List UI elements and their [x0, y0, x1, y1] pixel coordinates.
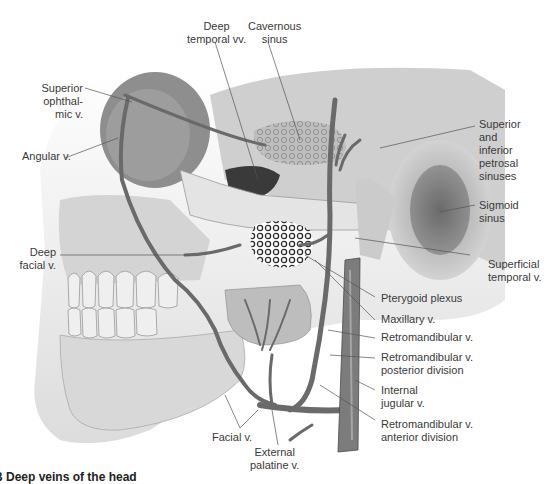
label-deep-facial-vein: Deep facial v.	[10, 246, 56, 272]
label-retromandibular-vein: Retromandibular v.	[381, 331, 473, 344]
label-retromandibular-anterior-division: Retromandibular v. anterior division	[381, 418, 473, 444]
label-facial-vein: Facial v.	[212, 431, 252, 444]
label-sigmoid-sinus: Sigmoid sinus	[479, 199, 519, 225]
label-superior-ophthalmic-vein: Superior ophthal- mic v.	[28, 82, 83, 121]
label-external-palatine-vein: External palatine v.	[250, 446, 299, 472]
label-pterygoid-plexus: Pterygoid plexus	[381, 292, 462, 305]
label-petrosal-sinuses: Superior and inferior petrosal sinuses	[479, 118, 521, 183]
figure-caption: B Deep veins of the head	[0, 470, 137, 484]
label-maxillary-vein: Maxillary v.	[381, 313, 435, 326]
label-cavernous-sinus: Cavernous sinus	[248, 20, 301, 46]
label-superficial-temporal-vein: Superficial temporal v.	[488, 258, 542, 284]
label-deep-temporal-veins: Deep temporal vv.	[187, 20, 246, 46]
label-internal-jugular-vein: Internal jugular v.	[381, 384, 425, 410]
label-angular-vein: Angular v.	[22, 150, 71, 163]
label-retromandibular-posterior-division: Retromandibular v. posterior division	[381, 351, 473, 377]
